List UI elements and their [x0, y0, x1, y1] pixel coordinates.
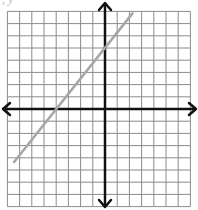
coordinate-plane	[0, 0, 198, 210]
